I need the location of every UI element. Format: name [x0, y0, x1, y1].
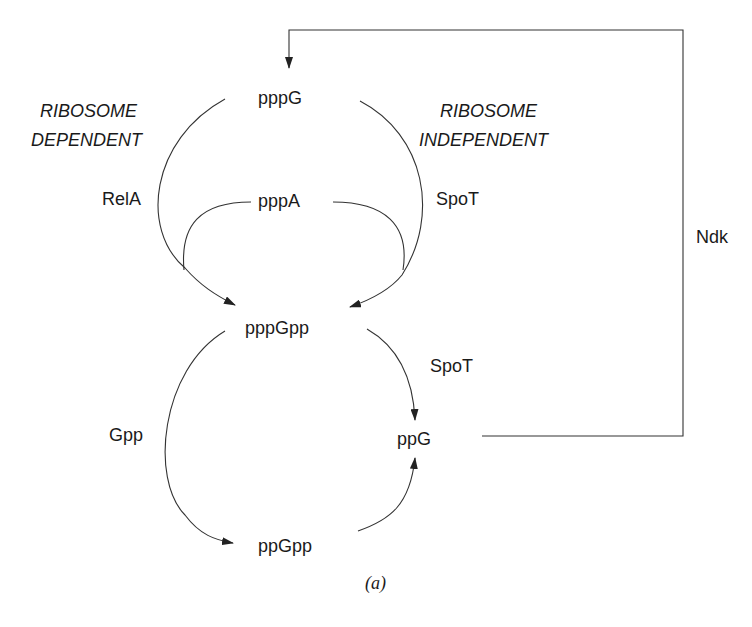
node-ppGpp: ppGpp: [258, 536, 312, 556]
gpp-arc-arrow: [165, 331, 233, 543]
spot-hydrolysis-arrow: [367, 329, 415, 420]
ribosome-independent-line2: INDEPENDENT: [419, 130, 550, 150]
pppa-left-curve: [184, 202, 251, 270]
ribosome-independent-line1: RIBOSOME: [440, 101, 538, 121]
enzyme-ndk: Ndk: [696, 227, 729, 247]
node-ppG: ppG: [397, 429, 431, 449]
enzyme-spot-top: SpoT: [436, 189, 479, 209]
node-pppG: pppG: [258, 88, 302, 108]
ribosome-dependent-line2: DEPENDENT: [31, 130, 144, 150]
spot-synthesis-arc-arrow: [350, 101, 423, 307]
ndk-feedback-arrow: [289, 30, 683, 436]
ppgpp-to-ppg-arrow: [358, 458, 415, 531]
node-pppGpp: pppGpp: [245, 318, 309, 338]
enzyme-rela: RelA: [102, 189, 141, 209]
ribosome-dependent-line1: RIBOSOME: [40, 101, 138, 121]
rela-arc-arrow: [158, 99, 235, 305]
pppa-right-curve: [333, 202, 404, 270]
ppgpp-metabolism-diagram: pppG pppA pppGpp ppG ppGpp RelA SpoT Spo…: [0, 0, 752, 627]
figure-caption: (a): [365, 573, 386, 594]
enzyme-gpp: Gpp: [109, 425, 143, 445]
node-pppA: pppA: [258, 191, 300, 211]
enzyme-spot-bottom: SpoT: [430, 356, 473, 376]
